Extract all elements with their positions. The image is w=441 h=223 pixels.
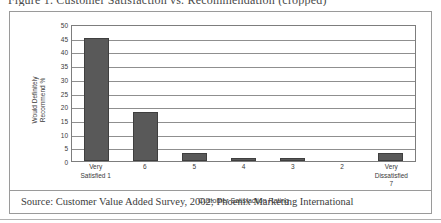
bar-cell bbox=[121, 26, 170, 161]
x-tick-label: 5 bbox=[170, 163, 219, 189]
bar[interactable] bbox=[378, 153, 403, 161]
y-tick-label: 35 bbox=[61, 63, 68, 70]
bar-cell bbox=[170, 26, 219, 161]
y-tick-label: 15 bbox=[61, 117, 68, 124]
y-axis-tick-labels: 50454035302520151050 bbox=[50, 25, 68, 162]
x-tick-label: Very Dissatisfied 7 bbox=[367, 163, 416, 189]
y-tick-label: 25 bbox=[61, 90, 68, 97]
bar-cell bbox=[366, 26, 415, 161]
x-axis-tick-labels: Very Satisfied 165432Very Dissatisfied 7 bbox=[71, 163, 416, 189]
x-tick-label: 6 bbox=[120, 163, 169, 189]
bar-cell bbox=[268, 26, 317, 161]
y-tick-label: 50 bbox=[61, 22, 68, 29]
source-divider bbox=[10, 190, 431, 191]
y-axis-title-line-2: Recommend % bbox=[39, 77, 47, 124]
y-tick-label: 20 bbox=[61, 104, 68, 111]
y-tick-label: 0 bbox=[64, 159, 68, 166]
y-tick-label: 45 bbox=[61, 35, 68, 42]
bar-cell bbox=[317, 26, 366, 161]
bar[interactable] bbox=[84, 38, 109, 161]
y-tick-label: 5 bbox=[64, 145, 68, 152]
y-tick-label: 10 bbox=[61, 131, 68, 138]
bar[interactable] bbox=[182, 153, 207, 161]
bar-cell bbox=[219, 26, 268, 161]
figure-caption: Figure 1. Customer Satisfaction vs. Reco… bbox=[8, 0, 433, 6]
bar[interactable] bbox=[231, 158, 256, 161]
figure-frame: Would Definitely Recommend % 50454035302… bbox=[9, 11, 432, 214]
y-axis-title: Would Definitely Recommend % bbox=[26, 40, 52, 160]
y-tick-label: 30 bbox=[61, 76, 68, 83]
bar[interactable] bbox=[133, 112, 158, 161]
bars-layer bbox=[72, 26, 415, 161]
page-rule bbox=[0, 219, 441, 220]
x-tick-label: 2 bbox=[317, 163, 366, 189]
plot-area bbox=[71, 25, 416, 162]
bar-cell bbox=[72, 26, 121, 161]
x-tick-label: 4 bbox=[219, 163, 268, 189]
source-note: Source: Customer Value Added Survey, 200… bbox=[21, 196, 353, 207]
bar-chart: Would Definitely Recommend % 50454035302… bbox=[10, 12, 431, 190]
y-tick-label: 40 bbox=[61, 49, 68, 56]
x-tick-label: 3 bbox=[268, 163, 317, 189]
x-tick-label: Very Satisfied 1 bbox=[71, 163, 120, 189]
bar[interactable] bbox=[280, 158, 305, 161]
y-axis-title-line-1: Would Definitely bbox=[31, 77, 39, 124]
